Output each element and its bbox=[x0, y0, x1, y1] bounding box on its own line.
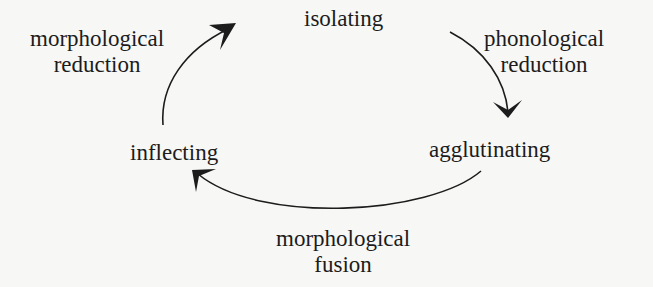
edge-label-line1: phonological bbox=[484, 26, 604, 52]
node-agglutinating: agglutinating bbox=[429, 137, 550, 163]
node-isolating: isolating bbox=[304, 6, 383, 32]
edge-label-morphological-fusion: morphological fusion bbox=[276, 226, 410, 278]
edge-label-line1: morphological bbox=[30, 26, 164, 52]
edge-label-line2: reduction bbox=[30, 52, 164, 78]
node-inflecting: inflecting bbox=[130, 140, 218, 166]
edge-label-line2: reduction bbox=[484, 52, 604, 78]
arrow-agglutinating-to-inflecting bbox=[192, 169, 481, 208]
edge-label-line2: fusion bbox=[276, 252, 410, 278]
edge-label-phonological-reduction: phonological reduction bbox=[484, 26, 604, 78]
edge-label-line1: morphological bbox=[276, 226, 410, 252]
arrow-inflecting-to-isolating bbox=[163, 23, 236, 125]
edge-label-morphological-reduction: morphological reduction bbox=[30, 26, 164, 78]
